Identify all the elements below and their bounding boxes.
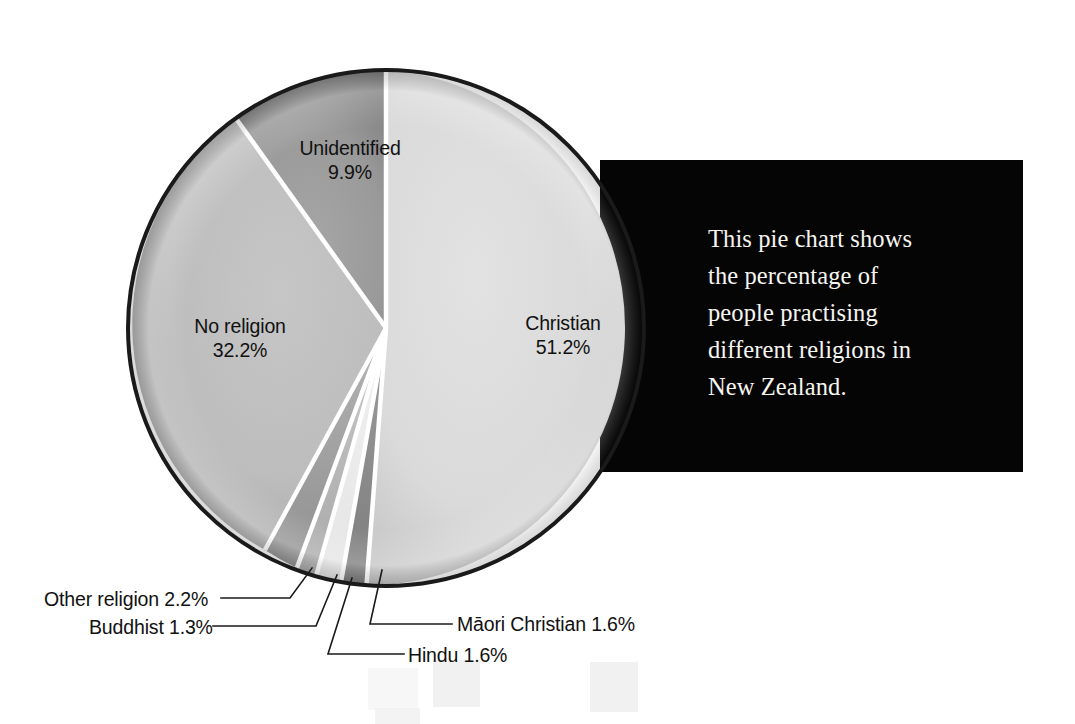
scan-artifact [375, 708, 420, 724]
leader-buddhist [213, 575, 337, 626]
scan-artifact [433, 660, 480, 707]
scan-artifact [590, 662, 638, 712]
scan-artifact [368, 668, 418, 710]
callout-label-buddhist: Buddhist 1.3% [89, 616, 213, 638]
callout-label-hindu: Hindu 1.6% [408, 644, 507, 666]
slice-label-christian: Christian 51.2% [488, 311, 638, 359]
slice-other-religion [265, 328, 386, 568]
callout-label-other-religion: Other religion 2.2% [44, 588, 208, 610]
slice-maori-christian [341, 328, 386, 585]
callout-label-maori-christian: Māori Christian 1.6% [457, 613, 635, 635]
caption-panel: This pie chart shows the percentage of p… [600, 160, 1023, 472]
slice-label-unidentified: Unidentified 9.9% [250, 136, 450, 184]
leader-maori-christian [370, 570, 452, 624]
caption-text: This pie chart shows the percentage of p… [708, 220, 968, 405]
slice-label-no-religion: No religion 32.2% [150, 314, 330, 362]
slice-unidentified [236, 70, 386, 328]
slice-buddhist [297, 328, 386, 576]
leader-hindu [328, 578, 404, 654]
chart-page: This pie chart shows the percentage of p… [0, 0, 1075, 724]
slice-hindu [316, 328, 386, 583]
leader-other-religion [221, 568, 312, 598]
